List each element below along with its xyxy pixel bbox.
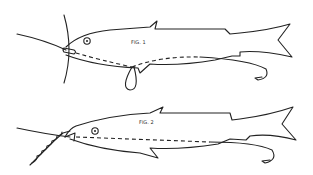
- fishing-rig-diagram: FIG. 1 FIG. 2: [0, 0, 313, 175]
- figure-2-label: FIG. 2: [139, 119, 154, 125]
- figure-1-label: FIG. 1: [131, 39, 146, 45]
- figure-2: FIG. 2: [17, 107, 296, 165]
- figure-1: FIG. 1: [17, 15, 292, 90]
